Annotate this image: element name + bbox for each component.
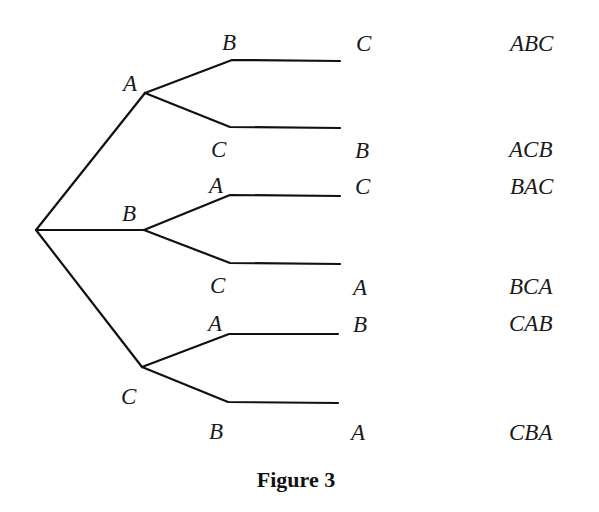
leaf-label-CBA: A [349, 420, 366, 445]
node-label-level1-B: B [122, 201, 136, 226]
node-label-A-C: C [211, 137, 227, 162]
permutation-ABC: ABC [508, 31, 554, 56]
node-label-level1-C: C [121, 384, 137, 409]
branch-C [142, 334, 338, 403]
node-label-B-C: C [210, 273, 226, 298]
permutation-tree-diagram: A B C B C A C A B C B C A B A ABC ACB BA… [0, 0, 599, 512]
leaf-label-CAB: B [353, 312, 367, 337]
node-label-level1-A: A [121, 71, 138, 96]
edge-B-to-C [144, 230, 340, 264]
permutation-BCA: BCA [509, 274, 553, 299]
permutation-CBA: CBA [509, 420, 553, 445]
edge-A-to-B [145, 60, 340, 93]
node-label-A-B: B [222, 30, 236, 55]
leaf-label-BAC: C [355, 174, 371, 199]
branch-B [144, 195, 340, 264]
permutation-BAC: BAC [510, 174, 554, 199]
branch-A [145, 60, 340, 128]
leaf-label-BCA: A [351, 275, 368, 300]
edge-C-to-B [142, 367, 338, 403]
edge-root-to-C [36, 230, 142, 367]
permutation-ACB: ACB [507, 137, 552, 162]
figure-caption: Figure 3 [257, 467, 335, 492]
node-label-B-A: A [207, 173, 224, 198]
permutation-CAB: CAB [509, 311, 552, 336]
edge-C-to-A [142, 334, 338, 367]
node-label-C-A: A [206, 311, 223, 336]
root-edges [36, 93, 145, 367]
leaf-label-ACB: B [355, 138, 369, 163]
edge-B-to-A [144, 195, 340, 230]
node-label-C-B: B [209, 419, 223, 444]
leaf-label-ABC: C [356, 31, 372, 56]
edge-A-to-C [145, 93, 340, 128]
